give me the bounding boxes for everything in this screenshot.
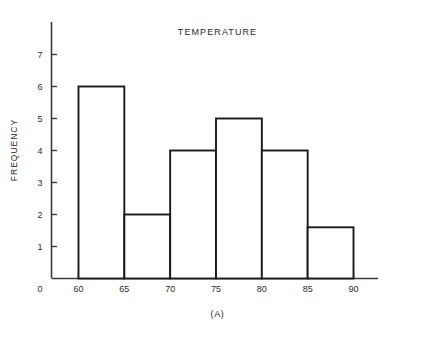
histogram-bar — [216, 119, 262, 279]
x-tick-label: 75 — [211, 284, 221, 294]
y-axis-tick-labels: 1234567 — [37, 50, 42, 252]
histogram-bar — [262, 151, 308, 279]
x-tick-label: 85 — [303, 284, 313, 294]
x-tick-label: 90 — [348, 284, 358, 294]
y-tick-label: 3 — [37, 178, 42, 188]
x-tick-label: 65 — [119, 284, 129, 294]
y-tick-label: 5 — [37, 114, 42, 124]
y-tick-label: 4 — [37, 146, 42, 156]
histogram-bar — [308, 227, 354, 278]
figure-caption: (A) — [0, 309, 435, 319]
histogram-figure: TEMPERATURE FREQUENCY 1234567 0606570758… — [0, 0, 435, 341]
histogram-plot-area: 1234567 060657075808590 — [0, 0, 435, 341]
x-axis-tick-labels: 060657075808590 — [37, 284, 358, 294]
y-tick-label: 7 — [37, 50, 42, 60]
histogram-bar — [79, 87, 125, 279]
y-axis-ticks — [52, 55, 58, 247]
y-tick-label: 2 — [37, 210, 42, 220]
histogram-bars — [79, 87, 354, 279]
x-tick-label: 60 — [73, 284, 83, 294]
x-tick-label: 80 — [257, 284, 267, 294]
histogram-bar — [170, 151, 216, 279]
y-tick-label: 6 — [37, 82, 42, 92]
x-tick-label: 70 — [165, 284, 175, 294]
y-tick-label: 1 — [37, 242, 42, 252]
histogram-bar — [124, 215, 170, 279]
origin-label: 0 — [37, 284, 42, 294]
